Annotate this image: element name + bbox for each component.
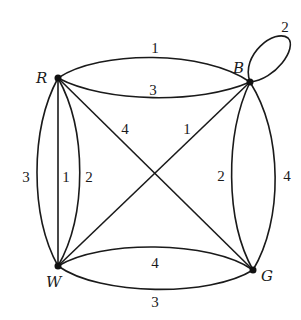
graph-diagram: R B W G 1 3 2 3 1 2 4 1 2 4 4 3 <box>0 0 301 320</box>
weight-r-w-inner: 2 <box>85 169 93 185</box>
weight-r-b-upper: 1 <box>151 40 159 56</box>
node-r <box>55 75 62 82</box>
weight-r-w-outer-text: 3 <box>22 169 30 185</box>
edge-r-b-1 <box>58 57 250 82</box>
weight-r-g: 4 <box>121 121 129 137</box>
node-label-g: G <box>261 267 273 285</box>
edge-b-g-2 <box>232 82 253 270</box>
edge-b-loop <box>248 36 290 82</box>
node-label-b: B <box>232 59 244 77</box>
node-label-w: W <box>46 273 63 291</box>
weight-r-b-lower: 3 <box>149 82 157 98</box>
weight-w-g-upper: 4 <box>151 255 159 271</box>
edge-b-g-4 <box>250 82 275 270</box>
weight-w-b: 1 <box>183 121 191 137</box>
weight-w-g-lower: 3 <box>151 294 159 310</box>
node-w <box>55 263 62 270</box>
weight-b-g-outer: 4 <box>283 168 291 184</box>
weight-b-loop: 2 <box>281 19 289 35</box>
weight-b-g-inner: 2 <box>217 168 225 184</box>
node-g <box>250 267 257 274</box>
weight-r-w-straight: 1 <box>62 169 70 185</box>
edge-r-w-3 <box>37 78 58 266</box>
node-label-r: R <box>35 69 47 87</box>
node-b <box>247 79 254 86</box>
